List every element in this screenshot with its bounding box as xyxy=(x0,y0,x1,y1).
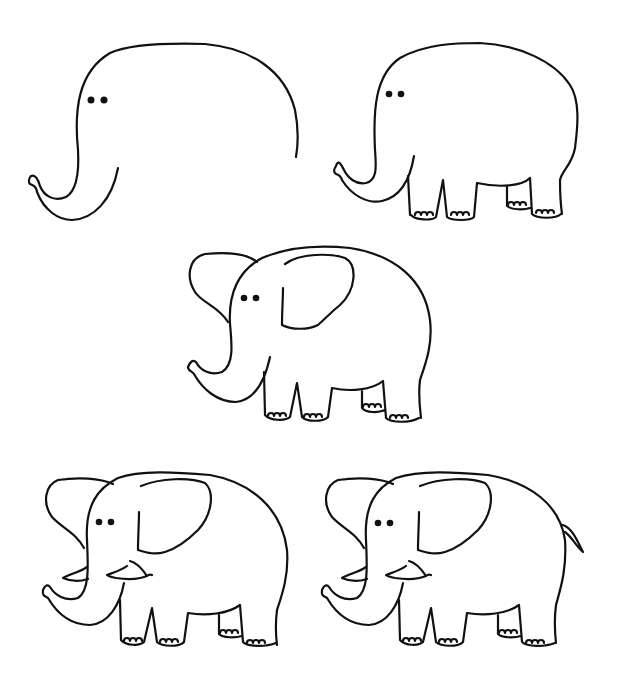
trunk xyxy=(322,540,403,625)
eye-icon xyxy=(386,91,393,98)
eye-icon xyxy=(88,97,95,104)
step-1-elephant xyxy=(29,44,298,220)
step-5-elephant xyxy=(322,472,583,646)
tusk-right xyxy=(107,561,152,579)
eye-icon xyxy=(96,519,103,526)
toenails xyxy=(268,404,408,418)
body-outline xyxy=(230,247,431,418)
eye-icon xyxy=(101,97,108,104)
belly xyxy=(477,178,530,186)
ear-left xyxy=(190,253,257,322)
eye-icon xyxy=(398,91,405,98)
ear-left xyxy=(326,478,393,548)
eye-icon xyxy=(108,519,115,526)
tusk-right xyxy=(386,561,431,579)
eye-icon xyxy=(387,520,394,527)
trunk xyxy=(334,150,414,202)
trunk xyxy=(188,324,270,402)
ear-right xyxy=(282,255,354,329)
ear-right xyxy=(418,479,491,553)
legs xyxy=(120,600,276,646)
legs xyxy=(399,600,555,646)
eye-icon xyxy=(253,295,260,302)
tusk-left xyxy=(63,567,88,581)
head-outline xyxy=(77,44,298,157)
eye-icon xyxy=(375,520,382,527)
legs xyxy=(264,372,419,422)
tusk-left xyxy=(342,567,367,581)
step-3-elephant xyxy=(188,247,431,422)
drawing-tutorial-canvas xyxy=(0,0,623,692)
step-2-elephant xyxy=(334,43,577,220)
ear-right xyxy=(138,479,211,553)
front-leg-left xyxy=(408,176,477,220)
eye-icon xyxy=(241,295,248,302)
trunk xyxy=(29,150,118,220)
trunk xyxy=(43,540,124,625)
step-4-elephant xyxy=(43,472,288,646)
